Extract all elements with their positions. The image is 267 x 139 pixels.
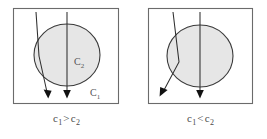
panel-left-diagram: C2 C1 [0, 0, 133, 111]
panel-left-caption-relation: > [62, 112, 71, 124]
panel-right: c1<c2 [134, 0, 267, 139]
panel-right-caption-relation: < [196, 112, 205, 124]
figure-root: C2 C1 c1>c2 c1<c2 [0, 0, 267, 139]
panel-left-caption-rhs-sub: 2 [76, 118, 80, 127]
panel-right-caption-rhs-sub: 2 [210, 118, 214, 127]
panel-right-caption: c1<c2 [134, 111, 267, 130]
panel-left: C2 C1 c1>c2 [0, 0, 133, 139]
panel-left-caption: c1>c2 [0, 111, 133, 130]
panel-right-diagram [134, 0, 267, 111]
